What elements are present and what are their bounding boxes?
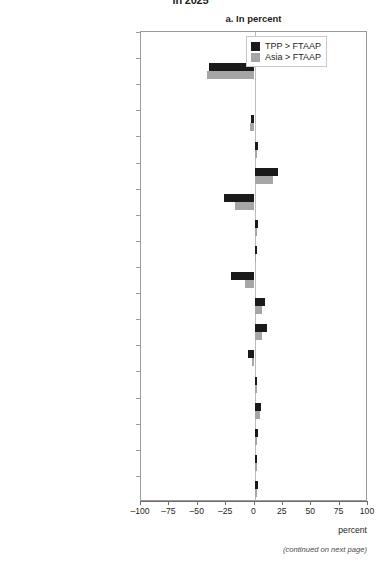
x-axis: –100–75–50–250255075100	[140, 501, 367, 502]
y-axis-tick	[136, 110, 140, 111]
y-axis-tick	[136, 476, 140, 477]
bar-tpp	[251, 115, 254, 123]
bar-asia	[255, 332, 263, 340]
x-axis-title: percent	[140, 525, 367, 535]
bar-asia	[255, 176, 273, 184]
figure-footnote: (continued on next page)	[140, 545, 367, 554]
x-axis-tick-label: –25	[218, 506, 232, 516]
legend-label-asia: Asia > FTAAP	[265, 52, 321, 62]
y-axis-tick	[136, 319, 140, 320]
y-axis-tick	[136, 189, 140, 190]
bar-tpp	[231, 272, 255, 280]
legend-swatch-icon-tpp	[251, 42, 260, 51]
bar-tpp	[255, 455, 257, 463]
bar-asia	[255, 254, 256, 262]
bar-tpp	[255, 168, 279, 176]
x-axis-tick	[339, 501, 340, 505]
figure-container: in 2025 a. In percent RiceWheatOther agr…	[0, 0, 381, 567]
bar-tpp	[255, 220, 258, 228]
bar-asia	[255, 228, 257, 236]
y-axis-tick	[136, 32, 140, 33]
bar-asia	[255, 385, 257, 393]
y-axis-tick	[136, 398, 140, 399]
chart-legend: TPP > FTAAP Asia > FTAAP	[246, 36, 327, 67]
legend-item-asia: Asia > FTAAP	[251, 52, 321, 62]
x-axis-tick-label: 0	[251, 506, 256, 516]
bar-asia	[255, 437, 257, 445]
bar-asia	[255, 306, 263, 314]
y-axis-tick	[136, 163, 140, 164]
bar-tpp	[255, 481, 258, 489]
plot-area: RiceWheatOther agricultureMiningFoodText…	[140, 31, 367, 501]
x-axis-tick-label: 75	[334, 506, 344, 516]
bar-asia	[255, 411, 261, 419]
y-axis-tick	[136, 241, 140, 242]
bar-asia	[252, 358, 254, 366]
y-axis-tick	[136, 136, 140, 137]
bar-asia	[255, 463, 257, 471]
x-axis-tick-label: 25	[277, 506, 287, 516]
x-axis-tick	[197, 501, 198, 505]
y-axis-tick	[136, 450, 140, 451]
y-axis-tick	[136, 293, 140, 294]
bar-tpp	[255, 246, 257, 254]
y-axis-tick	[136, 267, 140, 268]
x-axis-tick	[254, 501, 255, 505]
y-axis-tick	[136, 371, 140, 372]
bar-asia	[207, 71, 255, 79]
x-axis-tick	[367, 501, 368, 505]
y-axis-tick	[136, 215, 140, 216]
legend-swatch-icon-asia	[251, 53, 260, 62]
y-axis-tick	[136, 424, 140, 425]
y-axis-tick	[136, 345, 140, 346]
bar-tpp	[248, 350, 255, 358]
x-axis-tick-label: 100	[360, 506, 374, 516]
x-axis-tick-label: –75	[161, 506, 175, 516]
x-axis-tick	[310, 501, 311, 505]
y-axis-tick	[136, 58, 140, 59]
x-axis-tick	[140, 501, 141, 505]
x-axis-tick	[168, 501, 169, 505]
bar-asia	[255, 489, 257, 497]
y-axis-tick	[136, 84, 140, 85]
bar-tpp	[255, 142, 258, 150]
x-axis-tick	[282, 501, 283, 505]
bar-tpp	[255, 298, 265, 306]
panel-title: a. In percent	[140, 13, 367, 24]
bar-tpp	[255, 429, 258, 437]
bar-tpp	[224, 194, 255, 202]
bar-asia	[235, 202, 254, 210]
x-axis-tick-label: –100	[130, 506, 149, 516]
bar-tpp	[255, 403, 262, 411]
x-axis-tick-label: 50	[305, 506, 315, 516]
legend-label-tpp: TPP > FTAAP	[265, 41, 321, 51]
bar-tpp	[255, 324, 267, 332]
bar-asia	[255, 150, 257, 158]
bar-tpp	[255, 377, 257, 385]
bar-asia	[250, 123, 255, 131]
figure-top-title: in 2025	[0, 0, 381, 6]
x-axis-tick-label: –50	[190, 506, 204, 516]
bar-asia	[245, 280, 254, 288]
x-axis-tick	[225, 501, 226, 505]
legend-item-tpp: TPP > FTAAP	[251, 41, 321, 51]
